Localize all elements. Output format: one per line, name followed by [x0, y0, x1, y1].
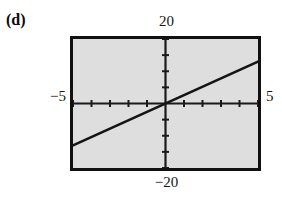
y-axis-max-label: 20	[70, 14, 262, 29]
plot-canvas	[73, 39, 258, 168]
panel-label: (d)	[6, 12, 26, 28]
figure-panel: (d) 20 −5 5 −20	[0, 0, 282, 202]
plot-frame	[70, 36, 261, 171]
x-axis-max-label: 5	[266, 89, 274, 104]
y-axis-min-label: −20	[70, 175, 262, 190]
x-axis-min-label: −5	[50, 89, 66, 104]
